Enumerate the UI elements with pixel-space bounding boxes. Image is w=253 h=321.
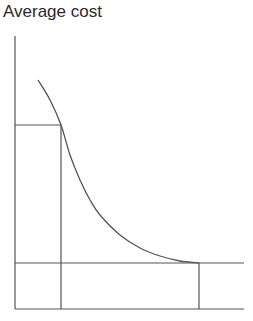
average-cost-curve: [38, 80, 199, 263]
average-cost-diagram: [0, 0, 253, 321]
